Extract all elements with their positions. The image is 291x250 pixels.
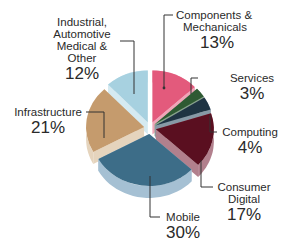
label-industrial-name-1: Industrial, [44,16,120,28]
label-industrial-name-2: Automotive [44,28,120,40]
label-components-name-1: Components & [176,9,291,21]
label-components-pct: 13% [176,33,291,52]
label-services-pct: 3% [222,84,282,103]
label-mobile-name: Mobile [160,211,206,223]
label-industrial-name-3: Medical & [44,40,120,52]
label-components: Components & Mechanicals 13% [176,9,291,52]
label-mobile-pct: 30% [160,223,206,242]
label-computing-name: Computing [220,126,280,138]
label-services-name: Services [222,72,282,84]
label-computing: Computing 4% [220,126,280,157]
label-consumer-digital: Consumer Digital 17% [214,181,274,224]
label-infrastructure: Infrastructure 21% [10,106,86,137]
label-mobile: Mobile 30% [160,211,206,242]
label-consumer-pct: 17% [214,205,274,224]
label-infrastructure-pct: 21% [10,118,86,137]
label-components-name-2: Mechanicals [176,21,291,33]
label-infrastructure-name: Infrastructure [10,106,86,118]
label-computing-pct: 4% [220,138,280,157]
label-industrial-name-4: Other [44,52,120,64]
label-consumer-name-1: Consumer [214,181,274,193]
label-industrial-pct: 12% [44,64,120,83]
label-industrial: Industrial, Automotive Medical & Other 1… [44,16,120,83]
label-services: Services 3% [222,72,282,103]
label-consumer-name-2: Digital [214,193,274,205]
